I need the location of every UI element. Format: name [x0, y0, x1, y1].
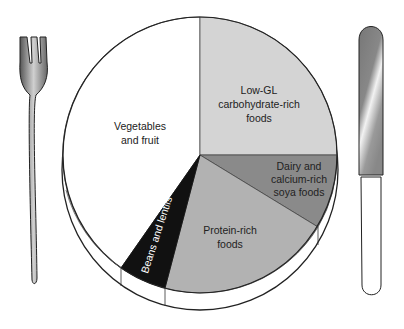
- label-dairy-line1: Dairy and: [277, 160, 322, 172]
- plate-chart: Vegetables and fruit Low-GL carbohydrate…: [0, 0, 404, 329]
- label-vegetables-line1: Vegetables: [114, 120, 166, 132]
- fork-icon: [20, 37, 48, 284]
- label-carb-line3: foods: [246, 112, 272, 124]
- label-protein-line1: Protein-rich: [203, 224, 257, 236]
- label-carb-line2: carbohydrate-rich: [218, 98, 300, 110]
- label-protein-line2: foods: [217, 238, 243, 250]
- label-dairy-line3: soya foods: [274, 186, 325, 198]
- label-dairy-line2: calcium-rich: [271, 173, 327, 185]
- label-vegetables-line2: and fruit: [121, 134, 159, 146]
- label-carb-line1: Low-GL: [241, 84, 278, 96]
- knife-icon: [359, 27, 383, 295]
